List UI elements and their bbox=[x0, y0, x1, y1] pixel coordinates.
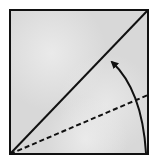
fold-diagram-svg bbox=[0, 0, 156, 167]
origami-diagram bbox=[0, 0, 156, 167]
